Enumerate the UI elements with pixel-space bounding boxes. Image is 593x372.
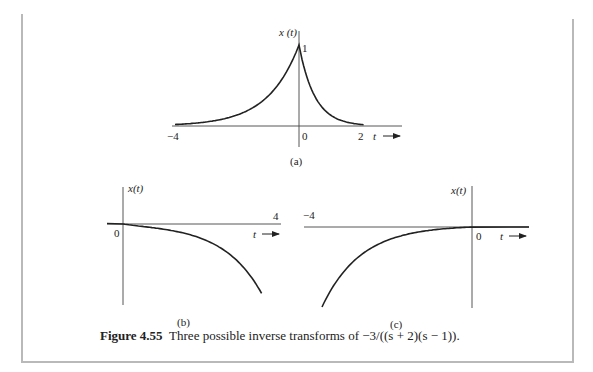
panel-c-ylabel: x(t) <box>450 184 467 197</box>
panel-a-curve <box>175 45 364 125</box>
panel-a-ylabel: x (t) <box>278 26 297 39</box>
panel-a-tick-neg4: −4 <box>167 130 179 142</box>
panel-b-curve <box>107 224 262 294</box>
panel-c-tick-0: 0 <box>476 230 482 242</box>
panel-b-xlabel: t <box>253 228 257 240</box>
panel-b-tick-4: 4 <box>273 210 279 222</box>
panel-a-tick-0: 0 <box>302 130 308 142</box>
panel-c-curve <box>322 227 529 307</box>
panel-c-tick-neg4: −4 <box>303 209 315 221</box>
panel-a-tick-2: 2 <box>358 130 364 142</box>
panel-a-xlabel: t <box>373 130 377 142</box>
panel-b: x(t) 0 4 t (b) <box>107 182 281 329</box>
panel-a-sublabel: (a) <box>290 155 303 168</box>
panel-a-peak-label: 1 <box>302 42 308 54</box>
panel-c: x(t) −4 0 t (c) <box>303 184 529 331</box>
panel-a: x (t) 1 −4 0 2 t (a) <box>167 26 402 168</box>
panel-b-ylabel: x(t) <box>127 182 144 195</box>
figure-caption: Figure 4.55 Three possible inverse trans… <box>100 328 460 344</box>
panel-c-xlabel: t <box>500 230 504 242</box>
figure-caption-text: Three possible inverse transforms of −3/… <box>169 328 460 343</box>
figure-number: Figure 4.55 <box>100 328 163 343</box>
panel-b-tick-0: 0 <box>114 227 120 239</box>
figure-canvas: x (t) 1 −4 0 2 t (a) x(t) 0 4 t (b) x(t)… <box>0 0 593 372</box>
